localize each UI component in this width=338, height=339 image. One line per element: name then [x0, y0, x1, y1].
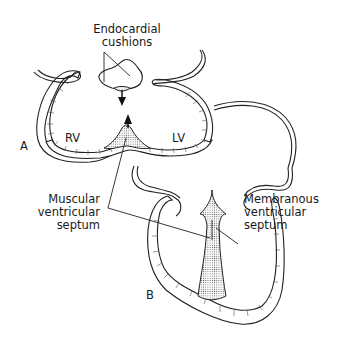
panel-b: [108, 166, 292, 324]
downward-arrow: [118, 97, 126, 106]
b-left-tube: [132, 166, 180, 200]
label-panel-b: B: [146, 288, 154, 302]
b-septum: [198, 190, 226, 300]
label-membranous-1: Membranous: [244, 192, 319, 206]
panel-a: [34, 50, 296, 208]
muscular-septum-mound-a: [104, 125, 150, 149]
label-muscular-1: Muscular: [48, 192, 100, 206]
label-endocardial-2: cushions: [102, 35, 152, 49]
label-rv: RV: [65, 131, 80, 145]
label-membranous-3: septum: [244, 218, 287, 232]
label-muscular-3: septum: [57, 218, 100, 232]
ventricular-septum-diagram: Endocardial cushions RV LV A Muscular ve…: [0, 0, 338, 339]
outflow-loop-a: [214, 102, 296, 168]
label-endocardial-1: Endocardial: [93, 22, 161, 36]
label-panel-a: A: [20, 139, 28, 153]
label-muscular-2: ventricular: [38, 205, 100, 219]
endocardial-cushion: [99, 59, 142, 89]
label-lv: LV: [172, 131, 185, 145]
label-membranous-2: ventricular: [244, 205, 306, 219]
upward-arrow: [124, 114, 132, 124]
b-left-lip: [176, 200, 181, 216]
